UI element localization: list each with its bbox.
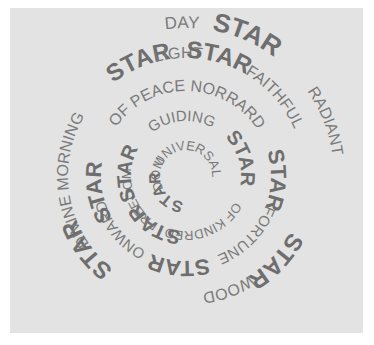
star-word: STAR (222, 126, 259, 188)
star-word: STAR (260, 147, 291, 215)
arc-word: OF (222, 200, 245, 224)
star-word: STAR (144, 249, 211, 281)
star-word: STAR (81, 161, 117, 228)
spiral-word-art: UNIVERSALSTARDOMGUIDINGSTAROFKINDREDSTAR… (0, 0, 374, 345)
arc-word: DAY (164, 13, 200, 33)
arc-word: GUIDING (144, 107, 218, 135)
arc-word: RADIANT (305, 83, 347, 156)
arc-word: DOM (148, 155, 168, 194)
star-word: STAR (113, 141, 142, 205)
